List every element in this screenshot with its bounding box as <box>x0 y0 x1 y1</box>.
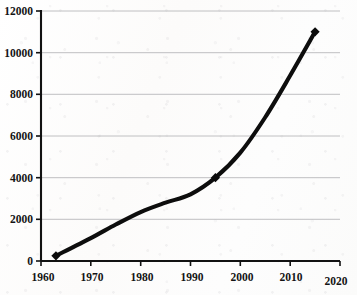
y-label-8000: 8000 <box>10 88 33 100</box>
x-label-1970: 1970 <box>81 271 104 283</box>
gridlines <box>41 11 340 219</box>
y-label-4000: 4000 <box>10 172 33 184</box>
series-line-path <box>56 32 315 256</box>
x-label-2020: 2020 <box>325 275 348 287</box>
chart-svg: 12000 10000 8000 6000 4000 2000 0 1960 1… <box>0 0 357 295</box>
x-label-2000: 2000 <box>231 271 254 283</box>
series-group <box>51 27 319 260</box>
y-label-12000: 12000 <box>4 5 33 17</box>
x-label-2010: 2010 <box>280 271 303 283</box>
series-markers <box>51 27 319 260</box>
line-chart: 12000 10000 8000 6000 4000 2000 0 1960 1… <box>0 0 357 295</box>
x-label-1980: 1980 <box>131 271 154 283</box>
y-label-2000: 2000 <box>10 213 33 225</box>
x-axis-labels: 1960 1970 1980 1990 2000 2010 2020 <box>32 271 348 287</box>
y-label-10000: 10000 <box>4 47 33 59</box>
x-label-1960: 1960 <box>32 271 55 283</box>
x-label-1990: 1990 <box>181 271 204 283</box>
y-label-6000: 6000 <box>10 130 33 142</box>
y-axis-labels: 12000 10000 8000 6000 4000 2000 0 <box>4 5 33 267</box>
y-label-0: 0 <box>27 255 33 267</box>
